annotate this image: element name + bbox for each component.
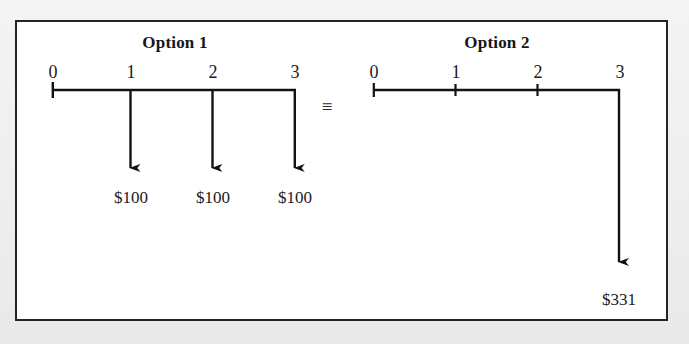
option-2-tick-label-0: 0 (363, 62, 385, 83)
option-2-timeline (373, 83, 620, 262)
option-1-cash-label-2: $100 (182, 188, 244, 208)
option-2-title: Option 2 (427, 33, 567, 53)
option-1-tick-label-3: 3 (284, 62, 306, 83)
equivalence-symbol: ≡ (317, 97, 337, 117)
option-2-tick-label-1: 1 (445, 62, 467, 83)
option-2-cash-label-1: $331 (588, 290, 650, 310)
option-1-title: Option 1 (105, 33, 245, 53)
timeline-drawing (0, 0, 689, 344)
option-2-tick-label-3: 3 (609, 62, 631, 83)
option-1-cash-label-1: $100 (100, 188, 162, 208)
option-1-tick-label-2: 2 (202, 62, 224, 83)
option-2-tick-label-2: 2 (527, 62, 549, 83)
option-1-cash-label-3: $100 (264, 188, 326, 208)
option-1-tick-label-0: 0 (42, 62, 64, 83)
option-1-timeline (52, 82, 296, 168)
figure-root: Option 1 Option 2 0 1 2 3 $100 $100 $100… (0, 0, 689, 344)
option-1-tick-label-1: 1 (120, 62, 142, 83)
